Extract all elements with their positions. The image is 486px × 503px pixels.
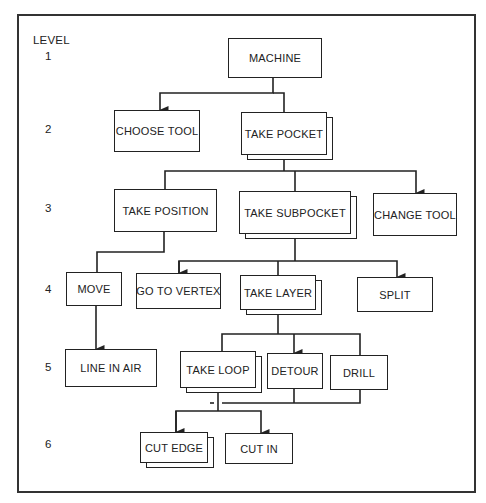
node-label: CHOOSE TOOL [114, 110, 200, 152]
node-detour: DETOUR [267, 353, 323, 389]
node-machine: MACHINE [228, 38, 322, 78]
node-take-pocket: TAKE POCKET [241, 112, 327, 155]
node-label: LINE IN AIR [65, 349, 157, 387]
node-label: SPLIT [357, 277, 433, 312]
node-label: MACHINE [228, 38, 322, 78]
node-label: DRILL [330, 355, 388, 390]
node-take-subpocket: TAKE SUBPOCKET [239, 191, 351, 234]
node-label: MOVE [66, 272, 122, 306]
node-cut-in: CUT IN [225, 433, 293, 464]
node-label: TAKE SUBPOCKET [239, 191, 351, 234]
node-label: TAKE POCKET [241, 112, 327, 155]
node-line-in-air: LINE IN AIR [65, 349, 157, 387]
node-move: MOVE [66, 272, 122, 306]
node-change-tool: CHANGE TOOL [373, 193, 457, 236]
node-choose-tool: CHOOSE TOOL [114, 110, 200, 152]
node-drill: DRILL [330, 355, 388, 390]
node-label: TAKE POSITION [114, 189, 217, 232]
node-label: DETOUR [267, 353, 323, 389]
node-label: TAKE LOOP [180, 351, 256, 388]
node-cut-edge: CUT EDGE [140, 432, 208, 463]
node-take-position: TAKE POSITION [114, 189, 217, 232]
node-label: CHANGE TOOL [373, 193, 457, 236]
node-label: GO TO VERTEX [136, 273, 221, 309]
node-label: TAKE LAYER [240, 275, 316, 310]
node-go-to-vertex: GO TO VERTEX [136, 273, 221, 309]
node-split: SPLIT [357, 277, 433, 312]
node-label: CUT EDGE [140, 432, 208, 463]
node-take-loop: TAKE LOOP [180, 351, 256, 388]
node-label: CUT IN [225, 433, 293, 464]
node-take-layer: TAKE LAYER [240, 275, 316, 310]
